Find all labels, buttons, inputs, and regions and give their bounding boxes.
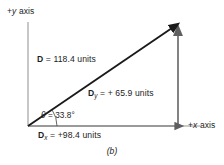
vector-diagram-canvas <box>0 0 224 165</box>
y-axis-label-word: axis <box>16 6 34 16</box>
vector-diagram-figure: +y axis +x axis D = 118.4 units Dy = + 6… <box>0 0 224 165</box>
component-x-label: Dx = +98.4 units <box>38 131 101 140</box>
component-x-equation: = +98.4 units <box>48 130 101 140</box>
component-y-label: Dy = + 65.9 units <box>88 89 154 98</box>
resultant-magnitude-label: D = 118.4 units <box>37 55 96 64</box>
figure-caption: (b) <box>0 147 224 156</box>
x-axis-label: +x axis <box>188 121 215 130</box>
angle-equation: = 33.8° <box>46 111 75 120</box>
angle-label: θ = 33.8° <box>41 112 75 120</box>
component-y-equation: = + 65.9 units <box>98 88 154 98</box>
x-axis-label-word: axis <box>197 120 215 130</box>
y-axis-label: +y axis <box>7 7 34 16</box>
resultant-equation: = 118.4 units <box>43 54 96 64</box>
component-x-subscript: x <box>44 134 47 141</box>
component-y-subscript: y <box>94 92 97 99</box>
